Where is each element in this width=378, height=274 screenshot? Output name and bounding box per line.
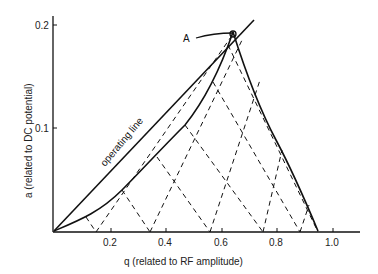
operating-line [54,20,254,231]
x-tick-label: 0.4 [158,237,172,248]
point-a-leader [196,33,233,38]
stability-boundary-left [54,32,233,231]
y-tick-label: 0.1 [35,123,49,134]
stability-diagram: 0.2 0.1 0.2 0.4 0.6 0.8 1.0 q (related t… [0,0,378,274]
x-tick-label: 0.6 [214,237,228,248]
y-tick-label: 0.2 [35,20,49,31]
x-tick-label: 1.0 [325,237,339,248]
stability-boundary-right [233,32,318,231]
x-axis-label: q (related to RF amplitude) [124,256,243,267]
y-axis-label: a (related to DC potential) [23,83,34,198]
x-tick-label: 0.8 [269,237,283,248]
x-tick-label: 0.2 [103,237,117,248]
point-a-label: A [183,33,190,44]
